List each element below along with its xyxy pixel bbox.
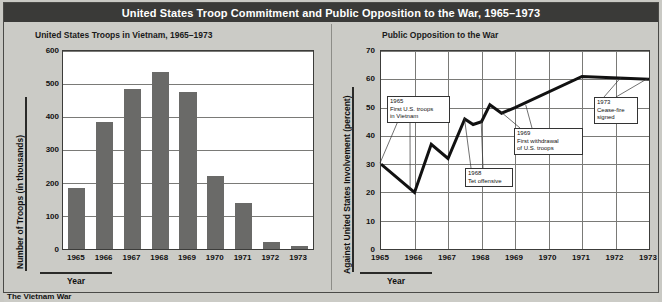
line-ytick-50: 50: [348, 103, 375, 112]
right-x-axis-rule: [360, 272, 432, 274]
bar-xtick-1967: 1967: [117, 253, 145, 262]
bar-xtick-1965: 1965: [62, 253, 90, 262]
line-xtick-1970: 1970: [534, 253, 562, 262]
bottom-caption: The Vietnam War: [4, 293, 658, 302]
bar-1966: [96, 122, 113, 249]
annotation-1965-first-troops: 1965 First U.S. troops in Vietnam: [387, 96, 450, 123]
right-chart-x-axis-title: Year: [360, 272, 432, 286]
annotation-1973-cease-fire: 1973 Cease-fire signed: [594, 97, 638, 124]
left-chart-panel: United States Troops in Vietnam, 1965–19…: [4, 24, 332, 290]
bar-ytick-200: 200: [28, 179, 59, 188]
line-xtick-1967: 1967: [433, 253, 461, 262]
left-chart-subtitle: United States Troops in Vietnam, 1965–19…: [35, 30, 212, 40]
line-ytick-60: 60: [348, 74, 375, 83]
line-xtick-1968: 1968: [467, 253, 495, 262]
bar-xtick-1970: 1970: [201, 253, 229, 262]
annotation-1973-year: 1973: [597, 99, 635, 107]
left-x-axis-rule: [40, 272, 112, 274]
line-xtick-1966: 1966: [400, 253, 428, 262]
annotation-1965-line2: in Vietnam: [390, 113, 447, 121]
bar-1969: [179, 92, 196, 249]
line-ytick-30: 30: [348, 160, 375, 169]
right-x-axis-title-text: Year: [387, 276, 405, 286]
line-ytick-20: 20: [348, 188, 375, 197]
annotation-1973-line2: signed: [597, 114, 635, 122]
line-xtick-1971: 1971: [567, 253, 595, 262]
bar-1973: [291, 246, 308, 249]
bar-1967: [124, 89, 141, 249]
right-chart-panel: Public Opposition to the War Against Uni…: [332, 24, 658, 290]
annotation-1965-line1: First U.S. troops: [390, 106, 447, 114]
bar-ytick-500: 500: [28, 79, 59, 88]
bar-xtick-1968: 1968: [145, 253, 173, 262]
left-y-axis-rule: [25, 97, 27, 271]
bar-ytick-400: 400: [28, 112, 59, 121]
bar-ytick-0: 0: [28, 245, 59, 254]
bar-1971: [235, 203, 252, 249]
annotation-1968-line1: Tet offensive: [468, 178, 510, 186]
bar-ytick-100: 100: [28, 212, 59, 221]
bar-gridline-600: [63, 51, 313, 52]
right-chart-subtitle: Public Opposition to the War: [382, 30, 498, 40]
bar-1965: [68, 188, 85, 249]
bar-1970: [207, 176, 224, 249]
bar-xtick-1972: 1972: [256, 253, 284, 262]
annotation-1969-first-withdrawal: 1969 First withdrawal of U.S. troops: [514, 128, 583, 155]
line-ytick-40: 40: [348, 131, 375, 140]
annotation-1968-year: 1968: [468, 170, 510, 178]
annotation-1969-line1: First withdrawal: [517, 138, 580, 146]
bar-xtick-1966: 1966: [90, 253, 118, 262]
page-title: United States Troop Commitment and Publi…: [122, 7, 540, 19]
annotation-1965-year: 1965: [390, 98, 447, 106]
bar-1972: [263, 242, 280, 249]
line-xtick-1965: 1965: [366, 253, 394, 262]
annotation-1968-tet-offensive: 1968 Tet offensive: [465, 168, 513, 187]
bar-xtick-1973: 1973: [284, 253, 312, 262]
line-ytick-70: 70: [348, 46, 375, 55]
infographic-root: United States Troop Commitment and Publi…: [0, 0, 662, 302]
bar-xtick-1971: 1971: [229, 253, 257, 262]
annotation-1973-line1: Cease-fire: [597, 107, 635, 115]
left-x-axis-title-text: Year: [67, 276, 85, 286]
line-xtick-1973: 1973: [634, 253, 662, 262]
line-xtick-1969: 1969: [500, 253, 528, 262]
bottom-caption-text: The Vietnam War: [7, 293, 71, 301]
line-xtick-1972: 1972: [601, 253, 629, 262]
left-chart-x-axis-title: Year: [40, 272, 112, 286]
bar-chart-plot-area: [62, 50, 314, 250]
bar-xtick-1969: 1969: [173, 253, 201, 262]
annotation-1969-year: 1969: [517, 130, 580, 138]
bar-1968: [152, 72, 169, 249]
bar-gridline-500: [63, 84, 313, 85]
title-bar: United States Troop Commitment and Publi…: [4, 3, 658, 22]
left-chart-y-axis-title: Number of Troops (in thousands): [15, 135, 25, 269]
bar-ytick-300: 300: [28, 145, 59, 154]
annotation-1969-line2: of U.S. troops: [517, 145, 580, 153]
line-vgridline-1973: [649, 51, 650, 249]
line-ytick-10: 10: [348, 217, 375, 226]
bar-ytick-600: 600: [28, 46, 59, 55]
